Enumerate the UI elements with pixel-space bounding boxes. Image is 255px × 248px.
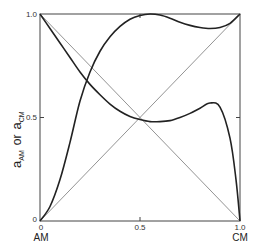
x-tick-label-05: 0.5 [134, 223, 146, 232]
x-end-label-am: AM [34, 232, 49, 243]
x-tick-label-1: 1.0 [234, 223, 246, 232]
y-axis-label: aAMoraCM [9, 111, 25, 168]
y-label-sub-cm: CM [18, 111, 25, 122]
x-end-label-cm: CM [232, 232, 248, 243]
y-label-sub-am: AM [18, 150, 25, 161]
diagonals [40, 14, 240, 221]
y-tick-label-1: 1.0 [26, 10, 38, 19]
x-tick-label-0: 0 [39, 223, 44, 232]
chart: 1.0 0.5 0 0 0.5 1.0 AM CM aAMoraCM [0, 0, 255, 248]
y-tick-label-0: 0 [33, 215, 38, 224]
svg-text:aAMoraCM: aAMoraCM [9, 111, 25, 168]
y-tick-label-05: 0.5 [26, 113, 38, 122]
y-label-or: or [10, 135, 24, 146]
